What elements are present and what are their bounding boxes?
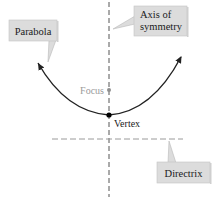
axis-callout: Axis of symmetry: [113, 6, 189, 37]
parabola-callout-pointer: [48, 40, 56, 62]
focus-point: [107, 88, 111, 92]
directrix-callout-text: Directrix: [165, 168, 204, 179]
vertex-point: [106, 112, 111, 117]
directrix-callout: Directrix: [157, 141, 212, 184]
directrix-callout-pointer: [168, 141, 176, 163]
parabola-diagram: Focus Vertex Parabola Axis of symmetry D…: [0, 0, 218, 199]
parabola-callout-text: Parabola: [15, 26, 52, 37]
axis-callout-text-line1: Axis of: [140, 9, 172, 20]
vertex-label: Vertex: [114, 118, 140, 129]
focus-label: Focus: [80, 85, 104, 96]
axis-callout-pointer: [113, 16, 135, 29]
axis-callout-text-line2: symmetry: [140, 21, 183, 32]
parabola-callout: Parabola: [9, 20, 59, 62]
